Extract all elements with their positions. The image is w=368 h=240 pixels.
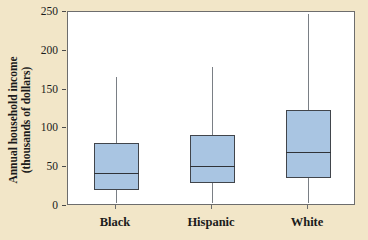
y-tick-mark xyxy=(62,205,66,206)
y-tick-label: 200 xyxy=(28,44,58,56)
box-plot-hispanic xyxy=(190,12,235,204)
box-rect xyxy=(94,143,139,190)
x-tick-label-white: White xyxy=(291,215,324,230)
x-tick-mark xyxy=(211,205,212,209)
median-line xyxy=(286,152,331,153)
box-rect xyxy=(286,110,331,178)
box-plot-black xyxy=(94,12,139,204)
y-tick-label: 150 xyxy=(28,83,58,95)
y-tick-label: 250 xyxy=(28,5,58,17)
plot-area xyxy=(67,11,355,205)
y-tick-label: 100 xyxy=(28,121,58,133)
boxplot-figure: Annual household income (thousands of do… xyxy=(0,0,368,240)
y-tick-mark xyxy=(62,89,66,90)
y-tick-label: 0 xyxy=(28,199,58,211)
x-tick-mark xyxy=(115,205,116,209)
x-tick-mark xyxy=(307,205,308,209)
median-line xyxy=(94,173,139,174)
y-tick-mark xyxy=(62,50,66,51)
y-axis-title-line1: Annual household income xyxy=(7,56,20,183)
median-line xyxy=(190,166,235,167)
y-tick-mark xyxy=(62,127,66,128)
y-tick-label: 50 xyxy=(28,160,58,172)
x-tick-label-hispanic: Hispanic xyxy=(187,215,234,230)
y-tick-mark xyxy=(62,166,66,167)
box-plot-white xyxy=(286,12,331,204)
box-rect xyxy=(190,135,235,183)
y-tick-mark xyxy=(62,11,66,12)
x-tick-label-black: Black xyxy=(100,215,131,230)
